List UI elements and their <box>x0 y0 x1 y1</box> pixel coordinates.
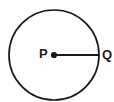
geometry-figure-circle-radius: P Q <box>0 0 114 102</box>
edge-point-label-q: Q <box>102 48 112 61</box>
center-point-label-p: P <box>39 47 48 60</box>
center-point-dot <box>51 52 57 58</box>
circle-diagram-canvas <box>0 0 114 102</box>
